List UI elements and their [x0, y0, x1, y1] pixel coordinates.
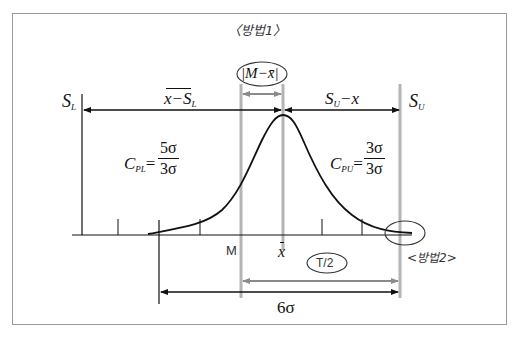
cpu-symbol: CPU= — [330, 155, 363, 174]
cpl-symbol: CPL= — [124, 155, 155, 174]
six-sigma-label: 6σ — [277, 299, 295, 316]
method1-title: 〈방법1〉 — [228, 24, 286, 37]
cpl-fraction: 5σ 3σ — [158, 140, 179, 177]
axis-label-M: M — [226, 244, 237, 257]
half-tolerance-label: T/2 — [316, 257, 333, 269]
xbar-minus-SL-label: x−SL — [164, 90, 197, 109]
process-capability-diagram: 〈방법1〉 SL SU x−SL SU−x |M−x̄| CPL= 5σ 3σ … — [0, 0, 520, 338]
cpu-fraction: 3σ 3σ — [364, 140, 385, 177]
upper-spec-label: SU — [409, 92, 425, 112]
method2-label: <방법2> — [407, 252, 457, 264]
diagram-graphics — [0, 0, 520, 338]
SU-minus-xbar-label: SU−x — [325, 90, 359, 109]
axis-label-xbar: x — [278, 244, 285, 260]
offset-label: |M−x̄| — [241, 66, 279, 81]
lower-spec-label: SL — [62, 92, 76, 112]
